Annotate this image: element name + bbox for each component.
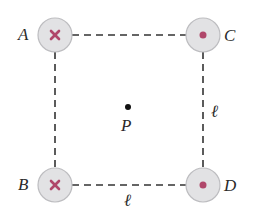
wire-c <box>186 18 220 52</box>
point-p-dot <box>125 104 131 110</box>
dot-icon <box>200 32 207 39</box>
label-a: A <box>18 26 28 43</box>
dot-icon <box>200 182 207 189</box>
square-wire-diagram: A C B D P ℓ ℓ <box>0 0 256 212</box>
label-side-bottom: ℓ <box>124 192 131 209</box>
dashed-square <box>55 35 203 185</box>
label-side-right: ℓ <box>211 103 218 120</box>
label-d: D <box>224 177 236 194</box>
wire-b <box>38 168 72 202</box>
label-c: C <box>224 27 235 44</box>
wire-d <box>186 168 220 202</box>
label-b: B <box>18 176 28 193</box>
label-p: P <box>121 117 131 134</box>
wire-a <box>38 18 72 52</box>
